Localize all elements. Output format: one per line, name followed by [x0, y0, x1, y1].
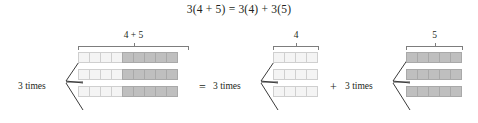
- cell-light: [306, 52, 318, 63]
- cell-group-right: 5: [406, 30, 463, 123]
- cell-row: [273, 69, 319, 80]
- cell-group-middle: 4: [273, 30, 319, 123]
- times-label-middle: 3 times: [213, 81, 241, 91]
- cell-row: [273, 86, 319, 97]
- cell-dark: [166, 52, 178, 63]
- cell-row: [78, 52, 189, 63]
- cell-row: [406, 52, 463, 63]
- cell-rows-middle: [273, 52, 319, 97]
- times-bracket-right: 3 times: [345, 30, 411, 123]
- distributive-property-figure: 3 times 4 + 5: [0, 30, 478, 123]
- plus-operator: +: [330, 80, 337, 95]
- brace-line-left: [78, 43, 189, 50]
- cell-dark: [450, 69, 462, 80]
- brace-label-right: 5: [406, 30, 463, 40]
- cell-row: [78, 69, 189, 80]
- cell-dark: [450, 52, 462, 63]
- cell-dark: [166, 86, 178, 97]
- cell-row: [273, 52, 319, 63]
- cell-row: [406, 69, 463, 80]
- distributive-property-equation: 3(4 + 5) = 3(4) + 3(5): [0, 3, 478, 15]
- brace-line-right: [406, 43, 463, 50]
- cell-rows-left: [78, 52, 189, 97]
- brace-line-middle: [273, 43, 319, 50]
- cell-row: [406, 86, 463, 97]
- cell-light: [306, 86, 318, 97]
- cell-group-left: 4 + 5: [78, 30, 189, 123]
- times-label-right: 3 times: [345, 81, 373, 91]
- cell-rows-right: [406, 52, 463, 97]
- times-bracket-middle: 3 times: [213, 30, 279, 123]
- cell-dark: [166, 69, 178, 80]
- times-bracket-left: 3 times: [18, 30, 84, 123]
- brace-label-middle: 4: [273, 30, 319, 40]
- cell-dark: [450, 86, 462, 97]
- times-label-left: 3 times: [18, 81, 46, 91]
- cell-light: [306, 69, 318, 80]
- equals-operator: =: [199, 80, 206, 95]
- cell-row: [78, 86, 189, 97]
- brace-label-left: 4 + 5: [78, 30, 189, 40]
